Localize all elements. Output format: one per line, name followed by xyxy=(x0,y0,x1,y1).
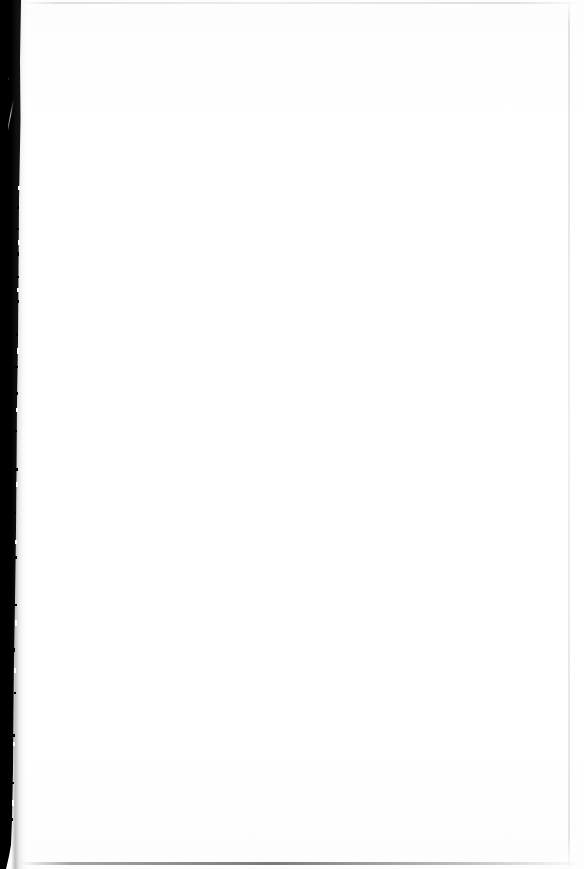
gutter-notch xyxy=(17,288,19,292)
gutter-notch xyxy=(18,240,20,245)
gutter-speckle xyxy=(16,276,19,278)
gutter-speckle xyxy=(17,252,19,256)
page-content-area xyxy=(24,6,568,861)
page-edge-right-line xyxy=(568,0,570,869)
gutter-notch xyxy=(12,800,14,806)
gutter-speckle xyxy=(12,782,14,784)
gutter-speckle xyxy=(16,228,19,230)
gutter-speckle xyxy=(14,692,16,694)
gutter-notch xyxy=(16,482,18,487)
gutter-speckle xyxy=(14,604,17,606)
gutter-speckle xyxy=(14,512,16,514)
gutter-notch xyxy=(16,408,18,412)
gutter-light-sliver xyxy=(8,78,22,156)
gutter-speckle xyxy=(16,333,18,336)
page-edge-bottom-line xyxy=(20,862,580,865)
gutter-notch xyxy=(18,186,20,190)
page-edge-top-line xyxy=(24,2,580,4)
gutter-speckle xyxy=(15,468,18,471)
gutter-speckle xyxy=(11,818,13,821)
scanned-page xyxy=(0,0,584,869)
gutter-speckle xyxy=(15,430,17,432)
gutter-notch xyxy=(17,348,19,354)
gutter-speckle xyxy=(15,556,17,559)
gutter-speckle xyxy=(13,734,15,737)
gutter-speckle xyxy=(15,366,18,368)
gutter-speckle xyxy=(17,300,19,303)
gutter-notch xyxy=(15,540,17,544)
gutter-speckle xyxy=(13,648,15,652)
gutter-notch xyxy=(14,668,16,673)
gutter-speckle xyxy=(17,206,19,209)
gutter-notch xyxy=(15,620,17,626)
gutter-speckle xyxy=(16,392,18,395)
gutter-notch xyxy=(13,742,15,746)
